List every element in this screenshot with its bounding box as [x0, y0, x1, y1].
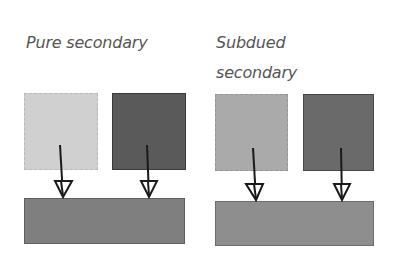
arrow-down-icon: [141, 145, 157, 197]
arrow-down-icon: [334, 148, 350, 200]
arrow-down-icon: [246, 148, 263, 200]
arrow-down-icon: [55, 145, 72, 197]
mixing-arrows: [0, 0, 394, 272]
